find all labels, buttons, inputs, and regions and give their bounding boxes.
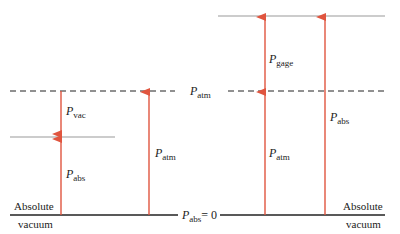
p-atm-left-label: Patm <box>155 146 176 162</box>
p-abs-left-label: Pabs <box>66 167 85 183</box>
p-vac-label: Pvac <box>66 104 86 120</box>
absolute-vacuum-caption-left-line2: vacuum <box>18 218 53 230</box>
p-abs-zero-label: Pabs= 0 <box>182 208 217 224</box>
absolute-vacuum-caption-right-line1: Absolute <box>343 200 383 212</box>
p-atm-center-label: Patm <box>190 84 211 100</box>
p-abs-right-label: Pabs <box>330 110 349 126</box>
absolute-vacuum-caption-left-line1: Absolute <box>14 200 54 212</box>
p-atm-right-label: Patm <box>269 146 290 162</box>
absolute-vacuum-caption-right-line2: vacuum <box>346 218 381 230</box>
p-gage-label: Pgage <box>269 52 293 68</box>
